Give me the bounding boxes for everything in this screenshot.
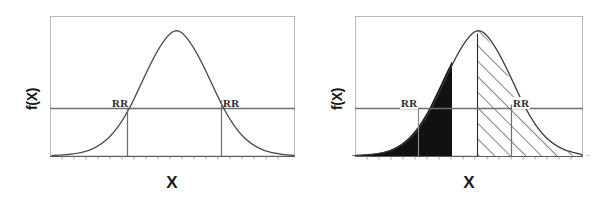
- panel-rejection-region-outline: f(X) X RR RR: [0, 0, 307, 207]
- plot-frame: [51, 17, 295, 157]
- rejection-region-label-right: RR: [223, 97, 239, 109]
- x-axis-label: X: [439, 173, 499, 193]
- x-axis-label: X: [142, 173, 202, 193]
- rejection-region-label-right: RR: [512, 97, 530, 109]
- rejection-region-label-left: RR: [400, 97, 418, 109]
- rejection-region-label-left: RR: [112, 97, 128, 109]
- two-panel-normal-distribution-figure: f(X) X RR RR: [0, 0, 614, 207]
- y-axis-label: f(X): [24, 70, 40, 110]
- y-axis-label: f(X): [329, 70, 345, 110]
- panel-rejection-region-shaded: f(X) X RR RR: [307, 0, 614, 207]
